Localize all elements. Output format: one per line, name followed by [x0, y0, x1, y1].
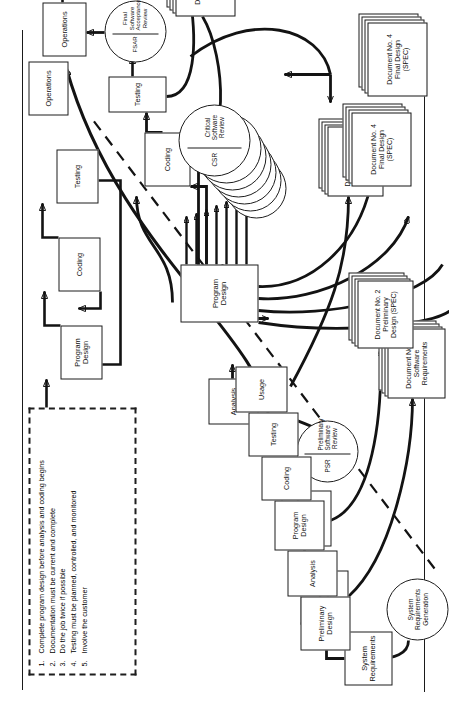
box-top-coding: Coding: [58, 237, 100, 291]
principles-note: 1. Complete program design before analys…: [28, 407, 136, 675]
box-main-operations: Operations: [42, 2, 86, 56]
principle-text: Documentation must be current and comple…: [48, 417, 56, 653]
circle-system-requirements-generation: SystemRequirementsGeneration: [386, 578, 448, 640]
box-label: ProgramDesign: [291, 510, 307, 540]
box-label: ProgramDesign: [73, 337, 90, 367]
box-label: Usage: [257, 378, 265, 401]
box-label: Operations: [44, 69, 52, 107]
principle-number: 1.: [37, 653, 45, 666]
principle-number: 2.: [48, 653, 56, 666]
circle-label: CriticalSoftwareReview: [203, 110, 225, 144]
diagram-canvas: 1. Complete program design before analys…: [0, 0, 449, 716]
box-label: ProgramDesign: [211, 277, 228, 308]
principle-item: 1. Complete program design before analys…: [37, 417, 45, 666]
doc-label: Document No. 4Final Design(SPEC): [369, 124, 393, 175]
diagram-page: 1. Complete program design before analys…: [0, 0, 449, 716]
doc-label: Document No. 2PreliminaryDesign (SPEC): [373, 289, 397, 339]
circle-divider: [304, 453, 351, 454]
box-stair-program-design: ProgramDesign: [274, 500, 324, 550]
document-stack-4b: Document No. 4Final Design(SPEC): [358, 8, 428, 96]
box-top-program-design: ProgramDesign: [60, 325, 102, 379]
document-stack-2: Document No. 2PreliminaryDesign (SPEC): [348, 266, 414, 348]
principle-number: 5.: [80, 653, 88, 666]
circle-abbr: FSAR: [132, 36, 139, 52]
principle-text: Involve the customer: [80, 417, 88, 653]
box-main-testing: Testing: [108, 76, 166, 112]
box-label: Coding: [163, 146, 171, 171]
principles-list: 1. Complete program design before analys…: [37, 417, 88, 666]
document-stack-4a: Document No. 4Final Design(SPEC): [342, 98, 412, 186]
circle-divider: [187, 147, 242, 148]
circle-critical-software-review: CSR CriticalSoftwareReview: [178, 104, 250, 176]
box-stair-testing: Testing: [248, 412, 298, 456]
principle-item: 4. Testing must be planned, controlled, …: [69, 417, 77, 666]
box-stair-analysis: Analysis: [287, 550, 337, 596]
circle-divider: [112, 33, 159, 34]
box-label: Coding: [75, 251, 83, 276]
box-label: PreliminaryDesign: [317, 604, 333, 642]
box-top-testing: Testing: [56, 149, 98, 203]
box-label: Testing: [133, 81, 141, 106]
circle-abbr: CSR: [210, 153, 217, 167]
box-stair-usage: Usage: [235, 366, 287, 412]
doc-face: Document No. 4Final Design(SPEC): [351, 112, 411, 186]
doc-face: Document No. 5Test Plan(SPEC): [175, 0, 235, 16]
principle-number: 4.: [69, 653, 77, 666]
box-label: Testing: [73, 163, 81, 188]
doc-face: Document No. 2PreliminaryDesign (SPEC): [357, 280, 413, 348]
circle-abbr: PSR: [323, 459, 330, 472]
box-main-program-design: ProgramDesign: [180, 264, 258, 322]
box-label: Analysis: [308, 559, 316, 588]
box-top-operations: Operations: [28, 61, 68, 115]
doc-label: Document No. 4Final Design(SPEC): [385, 34, 409, 85]
box-main-system-requirements: SystemRequirements: [344, 631, 392, 685]
doc-face: Document No. 4Final Design(SPEC): [367, 22, 427, 96]
principle-text: Testing must be planned, controlled, and…: [69, 417, 77, 653]
box-label: Operations: [60, 10, 68, 48]
principle-number: 3.: [58, 653, 66, 666]
principle-text: Complete program design before analysis …: [37, 417, 45, 653]
box-label: Coding: [282, 466, 290, 491]
circle-label: SystemRequirementsGeneration: [406, 588, 428, 629]
circle-label: PreliminarySoftwareReview: [316, 426, 338, 450]
principle-item: 2. Documentation must be current and com…: [48, 417, 56, 666]
principle-text: Do the job twice if possible: [58, 417, 66, 653]
doc-label: Document No. 5Test Plan(SPEC): [193, 0, 217, 4]
circle-label: FinalSoftwareAcceptanceReview: [122, 6, 149, 30]
box-label: SystemRequirements: [360, 634, 377, 682]
principle-item: 3. Do the job twice if possible: [58, 417, 66, 666]
principle-item: 5. Involve the customer: [80, 417, 88, 666]
box-label: Testing: [269, 422, 277, 447]
document-stack-5: Document No. 5Test Plan(SPEC): [166, 0, 236, 16]
box-stair-coding: Coding: [261, 456, 311, 500]
box-stair-preliminary-design: PreliminaryDesign: [300, 596, 350, 650]
circle-final-software-acceptance-review: FSAR FinalSoftwareAcceptanceReview: [104, 0, 166, 62]
